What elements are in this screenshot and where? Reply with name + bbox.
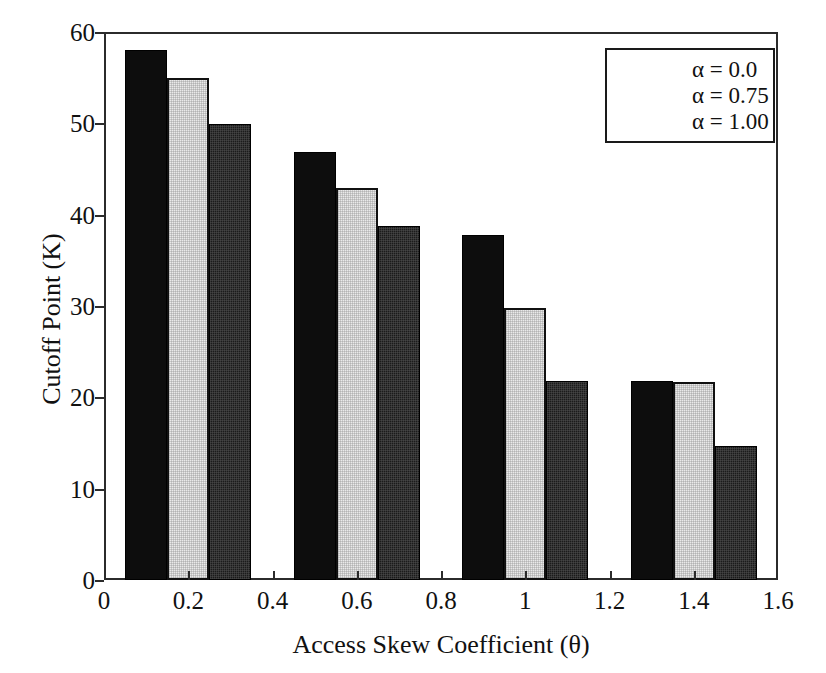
legend-swatch-icon xyxy=(617,59,680,81)
bar xyxy=(209,124,251,580)
y-tick-label: 40 xyxy=(70,202,95,227)
legend-swatch-icon xyxy=(617,111,680,133)
legend-item: α = 0.75 xyxy=(617,83,763,108)
y-tick-label: 50 xyxy=(70,111,95,136)
y-tick-mark xyxy=(95,32,104,34)
bar xyxy=(167,78,209,580)
legend-item-label: α = 0.0 xyxy=(692,58,757,81)
y-tick-label: 30 xyxy=(70,294,95,319)
y-tick-mark xyxy=(95,215,104,217)
bar xyxy=(546,381,588,580)
y-tick-label: 20 xyxy=(70,385,95,410)
bar xyxy=(631,381,673,580)
y-axis-title: Cutoff Point (K) xyxy=(39,189,65,449)
bar xyxy=(336,188,378,580)
x-tick-label: 1 xyxy=(519,588,532,613)
legend-swatch-icon xyxy=(617,85,680,107)
y-tick-mark xyxy=(95,397,104,399)
legend-item: α = 0.0 xyxy=(617,57,763,82)
x-tick-label: 0.4 xyxy=(257,588,288,613)
bar xyxy=(125,50,167,580)
y-tick-label: 10 xyxy=(70,476,95,501)
legend-item: α = 1.00 xyxy=(617,109,763,134)
y-tick-mark xyxy=(95,580,104,582)
y-tick-mark xyxy=(95,489,104,491)
legend-item-label: α = 0.75 xyxy=(692,84,769,107)
y-tick-mark xyxy=(95,123,104,125)
legend: α = 0.0 α = 0.75 α = 1.00 xyxy=(605,48,775,143)
y-tick-label: 0 xyxy=(83,568,96,593)
x-tick-label: 0.2 xyxy=(173,588,204,613)
x-tick-label: 0.6 xyxy=(341,588,372,613)
y-tick-mark xyxy=(95,306,104,308)
x-tick-label: 0 xyxy=(98,588,111,613)
bar xyxy=(378,226,420,580)
bar xyxy=(504,308,546,580)
x-axis-title: Access Skew Coefficient (θ) xyxy=(104,632,778,658)
bar xyxy=(294,152,336,580)
x-tick-label: 1.4 xyxy=(678,588,709,613)
bar-chart-figure: 010203040506000.20.40.60.811.21.41.6 Cut… xyxy=(0,0,826,673)
bar xyxy=(715,446,757,580)
x-tick-label: 1.6 xyxy=(762,588,793,613)
x-tick-label: 0.8 xyxy=(425,588,456,613)
y-tick-label: 60 xyxy=(70,20,95,45)
bar xyxy=(462,235,504,580)
legend-item-label: α = 1.00 xyxy=(692,110,769,133)
bar xyxy=(673,382,715,580)
x-tick-label: 1.2 xyxy=(594,588,625,613)
